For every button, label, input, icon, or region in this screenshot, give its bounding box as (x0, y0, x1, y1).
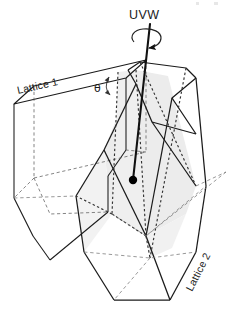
diagram-canvas: UVW Lattice 1 Lattice 2 θ (0, 0, 235, 336)
origin-dot (129, 176, 137, 184)
lattice-rotation-figure: UVW Lattice 1 Lattice 2 θ (0, 0, 235, 336)
uvw-axis-label: UVW (129, 8, 159, 22)
theta-angle-label: θ (94, 82, 101, 95)
